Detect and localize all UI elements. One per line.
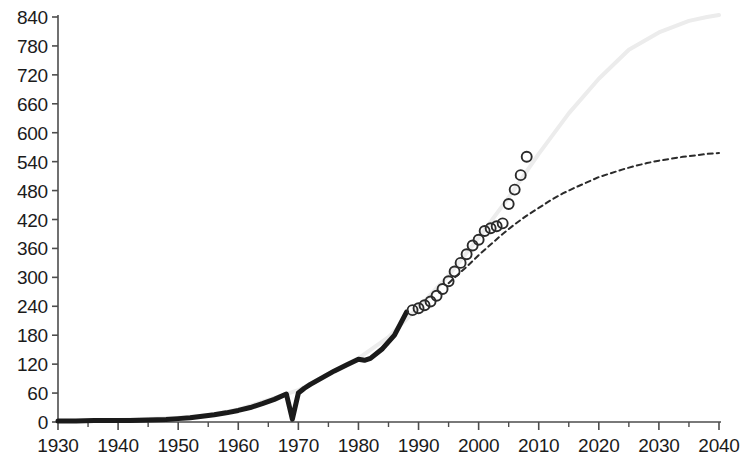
y-tick-label: 840 [0, 8, 48, 27]
x-tick-label: 2020 [568, 436, 630, 455]
y-tick-label: 720 [0, 66, 48, 85]
x-tick-label: 1960 [207, 436, 269, 455]
data-line-projection [449, 153, 719, 283]
x-tick-label: 1930 [27, 436, 89, 455]
series-projection-dashed [449, 153, 719, 283]
data-point-marker [522, 152, 532, 162]
y-tick-label: 660 [0, 95, 48, 114]
x-tick-label: 2010 [508, 436, 570, 455]
chart-container: 0601201802403003604204805406006607207808… [0, 0, 743, 457]
x-tick-label: 2040 [688, 436, 743, 455]
y-tick-label: 360 [0, 239, 48, 258]
y-tick-label: 480 [0, 182, 48, 201]
x-tick-label: 2000 [448, 436, 510, 455]
series-observation-markers [408, 152, 532, 315]
y-tick-label: 540 [0, 153, 48, 172]
data-point-marker [492, 221, 502, 231]
x-tick-label: 1940 [87, 436, 149, 455]
axes-group [58, 15, 721, 423]
y-tick-label: 120 [0, 355, 48, 374]
y-tick-label: 60 [0, 384, 48, 403]
data-line-upper-envelope [58, 15, 719, 421]
y-tick-label: 780 [0, 37, 48, 56]
series-historical-line [58, 312, 407, 421]
y-tick-label: 240 [0, 297, 48, 316]
y-tick-label: 600 [0, 124, 48, 143]
x-tick-label: 1970 [267, 436, 329, 455]
x-tick-label: 1980 [327, 436, 389, 455]
x-tick-label: 1990 [388, 436, 450, 455]
chart-plot-area [0, 0, 743, 457]
y-tick-label: 300 [0, 268, 48, 287]
x-tick-label: 1950 [147, 436, 209, 455]
y-axis-ticks [52, 17, 58, 422]
x-tick-label: 2030 [628, 436, 690, 455]
y-tick-label: 180 [0, 326, 48, 345]
series-upper-envelope [58, 15, 719, 421]
y-tick-label: 0 [0, 413, 48, 432]
y-tick-label: 420 [0, 211, 48, 230]
data-point-marker [498, 218, 508, 228]
data-line-historical [58, 312, 407, 421]
